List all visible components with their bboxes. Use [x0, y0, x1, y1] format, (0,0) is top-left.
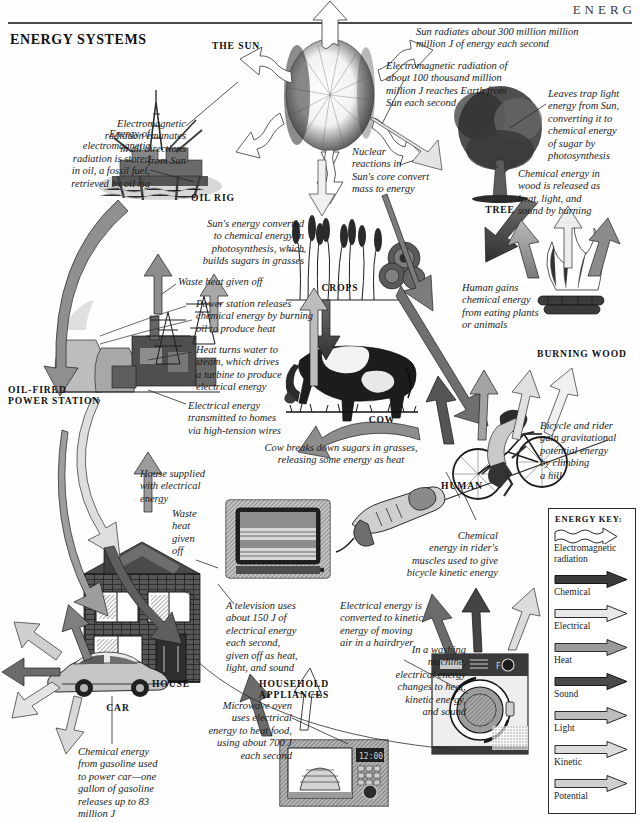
key-item-electrical: Electrical	[549, 604, 635, 638]
sound-arrow-icon	[553, 673, 629, 690]
kinetic-arrow-icon	[553, 741, 629, 758]
key-label-potential: Potential	[554, 791, 588, 802]
light-arrow-icon	[553, 707, 629, 724]
energy-systems-diagram: ENERG ENERGY SYSTEMS	[0, 0, 640, 822]
energy-key-title: ENERGY KEY:	[555, 514, 635, 524]
key-item-sound: Sound	[549, 672, 635, 706]
heat-arrow-icon	[553, 639, 629, 656]
potential-arrow-icon	[553, 775, 629, 792]
chemical-arrow-icon	[553, 571, 629, 588]
key-label-kinetic: Kinetic	[554, 757, 582, 768]
key-label-heat: Heat	[554, 655, 572, 666]
leader-lines	[0, 0, 640, 822]
key-item-chemical: Chemical	[549, 570, 635, 604]
key-item-electromagnetic-radiation: Electromagnetic radiation	[549, 526, 635, 570]
electrical-arrow-icon	[553, 605, 629, 622]
key-item-kinetic: Kinetic	[549, 740, 635, 774]
key-label-electrical: Electrical	[554, 621, 590, 632]
key-label-chemical: Chemical	[554, 587, 590, 598]
key-item-potential: Potential	[549, 774, 635, 808]
key-label-light: Light	[554, 723, 575, 734]
key-label-electromagnetic-radiation: Electromagnetic radiation	[554, 543, 616, 564]
key-item-light: Light	[549, 706, 635, 740]
key-item-heat: Heat	[549, 638, 635, 672]
wavy-arrow-icon	[553, 527, 629, 544]
energy-key: ENERGY KEY: Electromagnetic radiation Ch…	[548, 508, 636, 814]
key-label-sound: Sound	[554, 689, 578, 700]
